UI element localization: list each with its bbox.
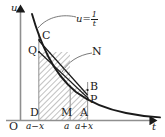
tick-label-a-plus-x: a+x [75, 122, 93, 131]
tick-label-a-minus-x: a−x [26, 122, 44, 131]
point-dot-Q [38, 51, 40, 53]
point-label-B: B [90, 81, 98, 92]
origin-label: O [9, 121, 18, 132]
curve-equation-label: u=1t [76, 11, 98, 29]
t-axis-label: t [152, 122, 156, 132]
curve-label-equals: = [82, 13, 90, 24]
point-label-C: C [42, 30, 50, 41]
curve-label-fraction: 1t [91, 11, 98, 29]
point-dot-B [87, 89, 89, 91]
point-label-Q: Q [28, 45, 37, 56]
point-label-M: M [61, 107, 72, 118]
point-label-P: P [90, 94, 97, 105]
figure-canvas: u t O u=1t C Q N B P D M A a−x a a+x [0, 0, 165, 137]
point-dot-C [38, 39, 40, 41]
point-dot-P [87, 98, 89, 100]
point-label-A: A [80, 107, 88, 118]
point-label-N: N [92, 46, 102, 57]
fraction-denominator: t [91, 19, 98, 28]
point-label-D: D [30, 107, 39, 118]
u-axis-label: u [11, 3, 17, 13]
fraction-numerator: 1 [91, 11, 98, 19]
tick-label-a: a [64, 122, 69, 131]
curve-label-leader [38, 16, 76, 28]
